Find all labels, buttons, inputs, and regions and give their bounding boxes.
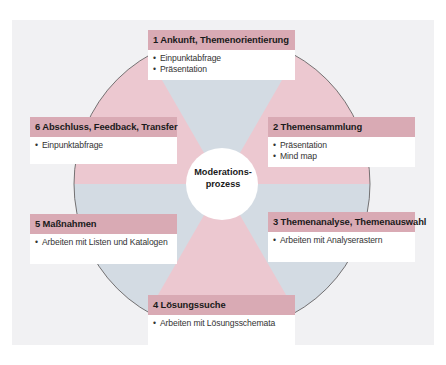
step-4-box: 4 Lösungssuche Arbeiten mit Lösungsschem…: [148, 295, 295, 345]
step-2-title: 2 Themensammlung: [268, 117, 415, 137]
center-label: Moderations- prozess: [190, 166, 256, 190]
step-1-item: Präsentation: [153, 64, 290, 75]
step-2-item: Mind map: [273, 151, 410, 162]
step-6-box: 6 Abschluss, Feedback, Transfer Einpunkt…: [30, 117, 177, 164]
center-label-line1: Moderations-: [190, 166, 256, 178]
step-6-title: 6 Abschluss, Feedback, Transfer: [30, 117, 177, 137]
step-5-item: Arbeiten mit Listen und Katalogen: [35, 237, 172, 248]
step-3-title: 3 Themenanalyse, Themenauswahl: [268, 212, 415, 232]
step-1-title: 1 Ankunft, Themenorientierung: [148, 30, 295, 50]
step-2-item: Präsentation: [273, 140, 410, 151]
step-1-item: Einpunktabfrage: [153, 53, 290, 64]
step-4-item: Arbeiten mit Lösungsschemata: [153, 318, 290, 329]
step-6-item: Einpunktabfrage: [35, 140, 172, 151]
step-3-item: Arbeiten mit Analyserastern: [273, 235, 410, 246]
step-4-title: 4 Lösungssuche: [148, 295, 295, 315]
center-label-line2: prozess: [190, 178, 256, 190]
step-5-box: 5 Maßnahmen Arbeiten mit Listen und Kata…: [30, 214, 177, 264]
step-3-box: 3 Themenanalyse, Themenauswahl Arbeiten …: [268, 212, 415, 262]
step-5-title: 5 Maßnahmen: [30, 214, 177, 234]
step-2-box: 2 Themensammlung Präsentation Mind map: [268, 117, 415, 167]
step-1-box: 1 Ankunft, Themenorientierung Einpunktab…: [148, 30, 295, 80]
